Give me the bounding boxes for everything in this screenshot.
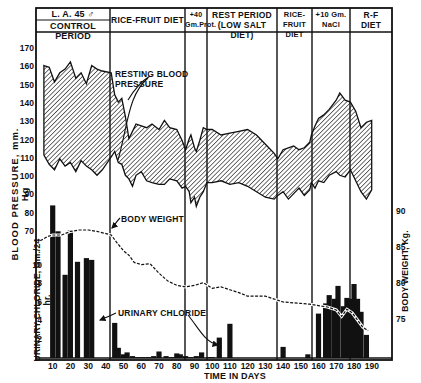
x-tick: 180 [347, 361, 361, 371]
body-weight-annotation: BODY WEIGHT [121, 214, 201, 224]
chloride-bar [75, 262, 80, 358]
header-subject: L. A. 45 ♂ [36, 9, 110, 19]
chart-root: L. A. 45 ♂CONTROL PERIODRICE-FRUIT DIET+… [0, 0, 421, 383]
x-tick: 20 [63, 361, 77, 371]
body-weight-axis-title: BODY WEIGHT, Kg. [400, 216, 410, 326]
chloride-bar [125, 352, 130, 358]
bp-axis-title: BLOOD PRESSURE, mm. Hg [10, 119, 30, 269]
chloride-bar [281, 347, 286, 358]
header-period-5: +10 Gm.NaCl [312, 10, 350, 30]
x-tick: 50 [117, 361, 131, 371]
chloride-bar [68, 230, 73, 358]
chloride-bar [227, 324, 232, 358]
chloride-bar [156, 352, 161, 359]
bw-arrow [112, 218, 120, 228]
chloride-bar [217, 338, 222, 358]
chloride-bar [199, 352, 204, 358]
x-tick: 150 [294, 361, 308, 371]
x-tick: 80 [170, 361, 184, 371]
bp-tick: 160 [12, 61, 34, 71]
chart-canvas [0, 0, 421, 383]
uc-arrow-left [100, 313, 116, 320]
header-period-3: REST PERIOD(LOW SALT DIET) [207, 10, 277, 40]
x-tick: 90 [187, 361, 201, 371]
bp-tick: 170 [12, 43, 34, 53]
chloride-bar [364, 335, 369, 358]
chloride-bar [358, 312, 363, 358]
chloride-bar [316, 314, 321, 358]
x-tick: 110 [223, 361, 237, 371]
chloride-bar [84, 258, 89, 358]
chloride-bar [335, 286, 340, 358]
x-tick: 30 [81, 361, 95, 371]
bp-tick: 140 [12, 98, 34, 108]
x-tick: 140 [276, 361, 290, 371]
x-tick: 100 [205, 361, 219, 371]
bw-tick: 90 [396, 206, 405, 216]
x-tick: 120 [241, 361, 255, 371]
x-axis-title: TIME IN DAYS [170, 371, 300, 381]
x-tick: 40 [99, 361, 113, 371]
chloride-bar [116, 348, 121, 358]
chloride-bar [55, 231, 60, 358]
bp-tick: 150 [12, 80, 34, 90]
x-tick: 60 [134, 361, 148, 371]
x-tick: 170 [329, 361, 343, 371]
chloride-bar [63, 275, 68, 358]
x-tick: 70 [152, 361, 166, 371]
header-control-period: CONTROL PERIOD [36, 21, 110, 41]
x-tick: 130 [258, 361, 272, 371]
header-period-6: R-FDIET [350, 10, 392, 30]
urinary-chloride-axis-title: URINARY CHLORIDE, Gm./24 hr. [32, 235, 52, 365]
chloride-bar [327, 295, 332, 358]
header-period-2: +40Gm.Prot. [185, 10, 207, 30]
bp-annotation: RESTING BLOOD PRESSURE [115, 69, 235, 89]
chloride-bar [89, 260, 94, 358]
urinary-chloride-bars [50, 205, 369, 358]
header-period-1: RICE-FRUIT DIET [110, 15, 185, 25]
urinary-chloride-annotation: URINARY CHLORIDE [118, 308, 228, 318]
x-tick: 190 [365, 361, 379, 371]
header-period-4: RICE-FRUITDIET [277, 10, 312, 40]
uc-arrow-right [188, 315, 218, 345]
x-tick: 160 [312, 361, 326, 371]
